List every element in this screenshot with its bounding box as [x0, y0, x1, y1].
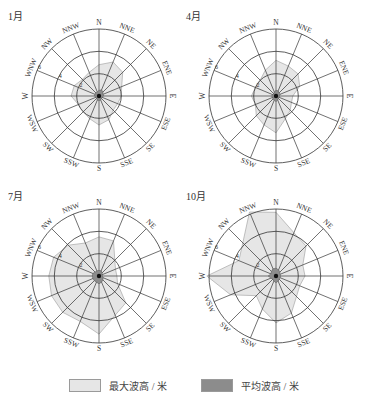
- direction-label: ESE: [336, 295, 350, 311]
- direction-label: NW: [216, 36, 232, 52]
- direction-label: E: [168, 94, 177, 99]
- legend-label-max: 最大波高 / 米: [109, 378, 167, 393]
- legend-label-mean: 平均波高 / 米: [241, 378, 299, 393]
- direction-label: S: [274, 164, 278, 173]
- direction-label: E: [168, 274, 177, 279]
- direction-label: ESE: [159, 115, 173, 131]
- panel-title: 4月: [186, 11, 201, 22]
- wave-rose-panel: 10月246NNNENEENEEESESESSESSSWSWWSWWWNWNWN…: [186, 191, 354, 353]
- direction-label: S: [97, 164, 101, 173]
- direction-label: NW: [216, 216, 232, 232]
- direction-label: SSW: [63, 336, 82, 351]
- legend-item-mean: 平均波高 / 米: [201, 378, 299, 393]
- direction-label: SSW: [240, 336, 259, 351]
- center-dot: [274, 274, 278, 278]
- wave-rose-panel: 7月246NNNENEENEEESESESSESSSWSWWSWWWNWNWNN…: [8, 191, 177, 353]
- direction-label: SSW: [240, 156, 259, 171]
- ring-label: 6: [215, 244, 218, 250]
- direction-label: SSW: [63, 156, 82, 171]
- direction-label: S: [274, 344, 278, 353]
- direction-label: E: [345, 274, 354, 279]
- center-dot: [97, 274, 101, 278]
- wave-rose-figure: 1月246NNNENEENEEESESESSESSSWSWWSWWWNWNWNN…: [0, 0, 368, 408]
- direction-label: WSW: [202, 113, 218, 134]
- center-dot: [97, 94, 101, 98]
- legend-item-max: 最大波高 / 米: [69, 378, 167, 393]
- ring-label: 4: [236, 73, 239, 79]
- direction-label: W: [198, 272, 207, 280]
- direction-label: SSE: [296, 156, 312, 169]
- legend: 最大波高 / 米 平均波高 / 米: [0, 374, 368, 396]
- direction-label: WSW: [25, 113, 41, 134]
- panel-title: 7月: [8, 191, 23, 202]
- direction-label: ESE: [336, 115, 350, 131]
- direction-label: WSW: [202, 293, 218, 314]
- direction-label: SSE: [119, 336, 135, 349]
- direction-label: N: [273, 18, 279, 27]
- direction-label: ESE: [159, 295, 173, 311]
- direction-label: NNW: [61, 20, 82, 36]
- direction-label: N: [96, 198, 102, 207]
- ring-label: 6: [38, 64, 41, 70]
- direction-label: WNW: [200, 236, 216, 258]
- ring-label: 4: [59, 253, 62, 259]
- direction-label: NW: [39, 216, 55, 232]
- center-dot: [274, 94, 278, 98]
- legend-swatch-max: [69, 379, 101, 392]
- direction-label: WSW: [25, 293, 41, 314]
- ring-label: 6: [38, 244, 41, 250]
- direction-label: SW: [41, 140, 56, 155]
- panel-title: 10月: [186, 191, 206, 202]
- direction-label: W: [21, 92, 30, 100]
- direction-label: NNW: [61, 200, 82, 216]
- direction-label: W: [21, 272, 30, 280]
- ring-label: 2: [79, 262, 82, 268]
- direction-label: WNW: [200, 56, 216, 78]
- direction-label: WNW: [23, 236, 39, 258]
- direction-label: E: [345, 94, 354, 99]
- direction-label: NW: [39, 36, 55, 52]
- direction-label: SSE: [296, 336, 312, 349]
- direction-label: SW: [218, 140, 233, 155]
- direction-label: WNW: [23, 56, 39, 78]
- direction-label: W: [198, 92, 207, 100]
- direction-label: N: [96, 18, 102, 27]
- direction-label: SW: [218, 320, 233, 335]
- ring-label: 6: [215, 64, 218, 70]
- direction-label: S: [97, 344, 101, 353]
- wave-rose-panel: 4月246NNNENEENEEESESESSESSSWSWWSWWWNWNWNN…: [186, 11, 354, 173]
- ring-label: 4: [236, 253, 239, 259]
- direction-label: N: [273, 198, 279, 207]
- wave-rose-panel: 1月246NNNENEENEEESESESSESSSWSWWSWWWNWNWNN…: [8, 11, 177, 173]
- ring-label: 2: [256, 82, 259, 88]
- panel-title: 1月: [8, 11, 23, 22]
- ring-label: 2: [79, 82, 82, 88]
- legend-swatch-mean: [201, 379, 233, 392]
- direction-label: SSE: [119, 156, 135, 169]
- ring-label: 2: [256, 262, 259, 268]
- direction-label: NNW: [238, 20, 259, 36]
- direction-label: SW: [41, 320, 56, 335]
- ring-label: 4: [59, 73, 62, 79]
